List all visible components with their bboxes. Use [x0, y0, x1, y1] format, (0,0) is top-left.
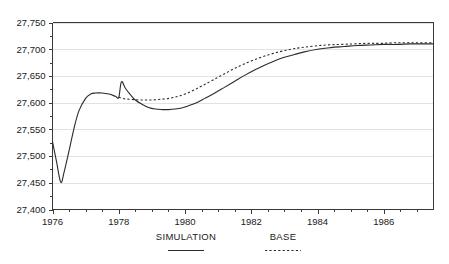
chart-container: 27,40027,45027,50027,55027,60027,65027,7… — [0, 0, 449, 264]
y-axis-label-4: 27,600 — [16, 97, 45, 108]
y-axis-label-6: 27,700 — [16, 44, 45, 55]
y-axis-label-3: 27,550 — [16, 124, 45, 135]
y-axis-label-0: 27,400 — [16, 204, 45, 215]
x-axis-label-5: 1986 — [373, 216, 394, 227]
x-axis-label-3: 1982 — [241, 216, 262, 227]
line-chart: 27,40027,45027,50027,55027,60027,65027,7… — [0, 0, 449, 264]
y-axis-label-1: 27,450 — [16, 177, 45, 188]
y-axis-label-5: 27,650 — [16, 70, 45, 81]
x-axis-label-0: 1976 — [42, 216, 63, 227]
y-axis-label-2: 27,500 — [16, 150, 45, 161]
legend-label-simulation: SIMULATION — [156, 231, 216, 242]
x-axis-label-2: 1980 — [174, 216, 195, 227]
x-axis-label-4: 1984 — [307, 216, 328, 227]
y-axis-label-7: 27,750 — [16, 17, 45, 28]
legend-label-base: BASE — [270, 231, 297, 242]
x-axis-label-1: 1978 — [108, 216, 129, 227]
